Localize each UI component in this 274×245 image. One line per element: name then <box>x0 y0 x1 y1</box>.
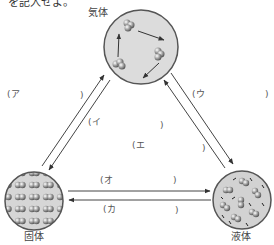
blank-a-open: (ア <box>7 90 20 99</box>
blank-ka-close: ) <box>175 206 179 215</box>
state-change-diagram: を記入せよ。 <box>0 0 274 245</box>
blank-e-open: (エ <box>132 141 145 150</box>
blank-o-open: (オ <box>100 176 113 185</box>
gas-label: 気体 <box>88 8 108 18</box>
liquid-label: 液体 <box>231 232 251 242</box>
blank-i-open: (イ <box>88 118 101 127</box>
liquid-circle <box>213 171 271 229</box>
gas-circle <box>104 10 178 84</box>
solid-label: 固体 <box>24 232 44 242</box>
diagram-graphics <box>0 0 274 245</box>
blank-a-close: ) <box>80 91 84 100</box>
blank-u-open: (ウ <box>192 90 205 99</box>
blank-u-close: ) <box>265 90 269 99</box>
blank-e-close: ) <box>202 144 206 153</box>
solid-circle <box>5 172 63 230</box>
blank-i-close: ) <box>160 121 164 130</box>
blank-ka-open: (カ <box>103 205 116 214</box>
blank-o-close: ) <box>173 176 177 185</box>
